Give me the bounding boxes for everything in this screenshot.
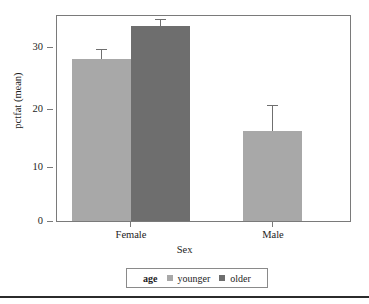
y-axis-title: pctfat (mean) (12, 36, 23, 166)
error-bar-cap-female-older (155, 19, 166, 20)
x-tick-label-female: Female (86, 229, 176, 240)
error-bar-cap-female-younger (96, 49, 107, 50)
legend-entry-younger[interactable]: younger (167, 273, 211, 284)
y-tick-mark-10 (47, 167, 53, 168)
x-tick-label-male: Male (228, 229, 318, 240)
error-bar-stem-female-older (160, 19, 161, 26)
x-tick-mark-female (130, 222, 131, 227)
legend-entry-older[interactable]: older (219, 273, 251, 284)
bar-male-younger (243, 131, 302, 221)
y-tick-label-10: 10 (33, 162, 44, 172)
legend-swatch-younger (167, 275, 173, 281)
x-tick-mark-male (272, 222, 273, 227)
x-axis-title: Sex (0, 244, 369, 255)
y-tick-mark-20 (47, 109, 53, 110)
y-axis: 30 20 10 0 (0, 0, 56, 304)
legend-title: age (143, 273, 157, 284)
legend-label-younger: younger (178, 273, 211, 284)
legend-label-older: older (230, 273, 251, 284)
legend: age younger older (126, 268, 268, 288)
error-bar-stem-male-younger (272, 105, 273, 131)
y-tick-mark-0 (47, 221, 53, 222)
plot-frame (56, 15, 351, 222)
bar-female-older (131, 26, 190, 221)
bar-female-younger (72, 59, 131, 221)
legend-swatch-older (219, 275, 225, 281)
footer-rule (0, 296, 369, 298)
y-tick-label-30: 30 (33, 42, 44, 52)
y-tick-mark-30 (47, 47, 53, 48)
chart-page: 30 20 10 0 pctfat (mean) Female Male (0, 0, 369, 304)
y-tick-label-0: 0 (38, 216, 43, 226)
plot-area (57, 16, 350, 221)
error-bar-stem-female-younger (101, 49, 102, 59)
y-tick-label-20: 20 (33, 104, 44, 114)
error-bar-cap-male-younger (267, 105, 278, 106)
